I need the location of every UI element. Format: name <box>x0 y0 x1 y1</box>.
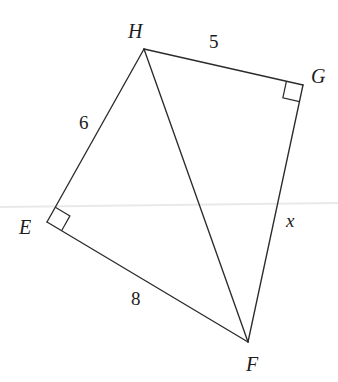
side-length-label-hg: 5 <box>209 31 219 52</box>
side-length-label-he: 6 <box>79 112 89 133</box>
right-angle-marker-e <box>55 207 70 231</box>
vertex-label-h: H <box>127 20 144 42</box>
edge-h-g <box>144 49 303 85</box>
vertex-label-f: F <box>245 353 259 375</box>
side-length-label-gf-unknown: x <box>285 210 295 231</box>
geometry-canvas: H G E F 5 6 8 x <box>0 0 338 382</box>
edge-e-f <box>47 222 248 342</box>
geometry-figure: H G E F 5 6 8 x <box>0 0 338 382</box>
side-length-label-ef: 8 <box>131 288 141 309</box>
vertex-label-g: G <box>311 65 326 87</box>
edge-h-f-diagonal <box>144 49 248 342</box>
vertex-label-e: E <box>18 216 31 238</box>
edge-g-f <box>248 85 303 342</box>
edge-h-e <box>47 49 144 222</box>
scan-line-artifact <box>0 203 338 207</box>
